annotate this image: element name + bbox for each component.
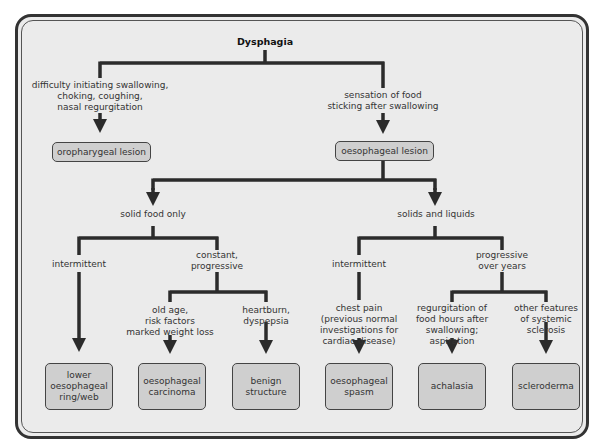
text-line: ring/web bbox=[59, 392, 98, 403]
symptom-text-regurgitation: regurgitation of food hours after swallo… bbox=[416, 303, 488, 347]
symptom-text-oesophageal: sensation of food sticking after swallow… bbox=[327, 90, 438, 112]
text-line: of systemic bbox=[514, 314, 578, 325]
label-constant-progressive: constant, progressive bbox=[191, 250, 243, 272]
text-line: over years bbox=[476, 261, 528, 272]
text-line: oesophageal bbox=[50, 381, 107, 392]
text-line: difficulty initiating swallowing, bbox=[32, 80, 169, 91]
text-line: marked weight loss bbox=[126, 327, 214, 338]
text-line: dyspepsia bbox=[242, 316, 290, 327]
text-line: sclerosis bbox=[514, 325, 578, 336]
text-line: other features bbox=[514, 303, 578, 314]
text-line: (previous normal bbox=[320, 314, 398, 325]
text-line: regurgitation of bbox=[416, 303, 488, 314]
text-line: chest pain bbox=[320, 303, 398, 314]
text-line: oesophageal bbox=[330, 376, 387, 387]
text-line: sticking after swallowing bbox=[327, 101, 438, 112]
text-line: sensation of food bbox=[327, 90, 438, 101]
symptom-text-oropharyngeal: difficulty initiating swallowing, chokin… bbox=[32, 80, 169, 113]
outcome-box-oesophageal-spasm: oesophageal spasm bbox=[325, 363, 393, 410]
outcome-box-benign-structure: benign structure bbox=[232, 363, 300, 410]
outcome-box-oesophageal-carcinoma: oesophageal carcinoma bbox=[138, 363, 206, 410]
text-line: nasal regurgitation bbox=[32, 102, 169, 113]
text-line: swallowing; bbox=[416, 325, 488, 336]
text-line: lower bbox=[67, 370, 92, 381]
outcome-box-lower-oesophageal-ring: lower oesophageal ring/web bbox=[45, 363, 113, 410]
outcome-box-oropharyngeal-lesion: oropharygeal lesion bbox=[52, 142, 151, 162]
outcome-box-oesophageal-lesion: oesophageal lesion bbox=[335, 141, 434, 161]
text-line: oesophageal bbox=[143, 376, 200, 387]
text-line: spasm bbox=[344, 387, 373, 398]
text-line: progressive bbox=[476, 250, 528, 261]
text-line: choking, coughing, bbox=[32, 91, 169, 102]
label-intermittent-solid: intermittent bbox=[52, 259, 106, 270]
text-line: carcinoma bbox=[149, 387, 196, 398]
outcome-box-achalasia: achalasia bbox=[418, 363, 486, 410]
symptom-text-heartburn: heartburn, dyspepsia bbox=[242, 305, 290, 327]
label-solids-and-liquids: solids and liquids bbox=[397, 209, 475, 220]
text-line: constant, bbox=[191, 250, 243, 261]
label-intermittent-solids-liquids: intermittent bbox=[332, 259, 386, 270]
diagram-title: Dysphagia bbox=[237, 36, 293, 47]
text-line: cardiac disease) bbox=[320, 336, 398, 347]
text-line: risk factors bbox=[126, 316, 214, 327]
text-line: investigations for bbox=[320, 325, 398, 336]
text-line: aspiration bbox=[416, 336, 488, 347]
outcome-box-scleroderma: scleroderma bbox=[512, 363, 580, 410]
text-line: heartburn, bbox=[242, 305, 290, 316]
text-line: old age, bbox=[126, 305, 214, 316]
text-line: structure bbox=[246, 387, 287, 398]
label-solid-food-only: solid food only bbox=[120, 209, 186, 220]
symptom-text-old-age: old age, risk factors marked weight loss bbox=[126, 305, 214, 338]
symptom-text-chest-pain: chest pain (previous normal investigatio… bbox=[320, 303, 398, 347]
symptom-text-systemic-sclerosis: other features of systemic sclerosis bbox=[514, 303, 578, 336]
text-line: benign bbox=[251, 376, 282, 387]
text-line: food hours after bbox=[416, 314, 488, 325]
text-line: progressive bbox=[191, 261, 243, 272]
label-progressive-over-years: progressive over years bbox=[476, 250, 528, 272]
